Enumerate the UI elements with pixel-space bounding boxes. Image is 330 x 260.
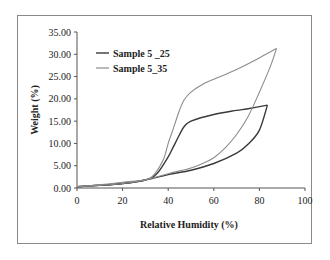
y-axis-title: Weight (%) [29,85,41,135]
y-tick-label: 5.00 [54,160,72,171]
y-tick-label: 35.00 [49,27,72,38]
y-tick-label: 10.00 [49,138,72,149]
x-tick-label: 60 [209,195,219,206]
x-tick-label: 20 [118,195,128,206]
series-sample-5-35-desorption [77,49,277,187]
legend: Sample 5 _25 Sample 5_35 [96,48,170,74]
x-axis-title: Relative Humidity (%) [140,219,238,231]
y-tick-label: 15.00 [49,116,72,127]
x-tick-label: 40 [163,195,173,206]
legend-label-sample-5-35: Sample 5_35 [113,63,167,74]
legend-label-sample-5-25: Sample 5 _25 [113,48,170,59]
plot-area [77,49,277,187]
axes: 0.005.0010.0015.0020.0025.0030.0035.0002… [49,27,313,207]
x-tick-label: 0 [75,195,80,206]
series-sample-5-25-adsorption [77,105,267,187]
y-tick-label: 25.00 [49,71,72,82]
y-tick-label: 20.00 [49,93,72,104]
y-tick-label: 0.00 [54,183,72,194]
hysteresis-chart: 0.005.0010.0015.0020.0025.0030.0035.0002… [0,0,330,260]
y-tick-label: 30.00 [49,49,72,60]
x-tick-label: 80 [254,195,264,206]
x-tick-label: 100 [298,195,313,206]
